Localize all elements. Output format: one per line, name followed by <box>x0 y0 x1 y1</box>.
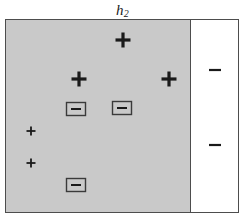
figure-title-base: h <box>116 2 124 18</box>
marker-glyph-minus-right-lower <box>206 136 224 154</box>
marker-plus-plus-top-center <box>113 30 134 51</box>
marker-glyph-plus-left-upper <box>22 122 40 140</box>
marker-glyph-minus-boxed-left <box>65 101 88 118</box>
marker-glyph-minus-right-upper <box>206 61 224 79</box>
marker-minus-boxed-minus-boxed-right <box>111 100 134 117</box>
white-right-region <box>190 20 238 212</box>
marker-minus-minus-right-lower <box>206 136 224 154</box>
figure-title: h2 <box>0 0 245 20</box>
marker-plus-plus-mid-left <box>69 69 90 90</box>
marker-minus-minus-right-upper <box>206 61 224 79</box>
marker-glyph-minus-boxed-right <box>111 100 134 117</box>
marker-minus-boxed-minus-boxed-bottom <box>65 177 88 194</box>
marker-glyph-plus-mid-right <box>159 69 180 90</box>
marker-glyph-minus-boxed-bottom <box>65 177 88 194</box>
marker-plus-plus-mid-right <box>159 69 180 90</box>
marker-minus-boxed-minus-boxed-left <box>65 101 88 118</box>
marker-glyph-plus-left-lower <box>22 154 40 172</box>
classifier-figure: h2 <box>0 0 245 219</box>
shaded-left-region <box>6 20 190 212</box>
marker-plus-plus-left-upper <box>22 122 40 140</box>
marker-plus-plus-left-lower <box>22 154 40 172</box>
decision-boundary <box>190 20 191 212</box>
figure-title-subscript: 2 <box>124 8 129 19</box>
marker-glyph-plus-mid-left <box>69 69 90 90</box>
plot-area <box>5 19 239 213</box>
marker-glyph-plus-top-center <box>113 30 134 51</box>
